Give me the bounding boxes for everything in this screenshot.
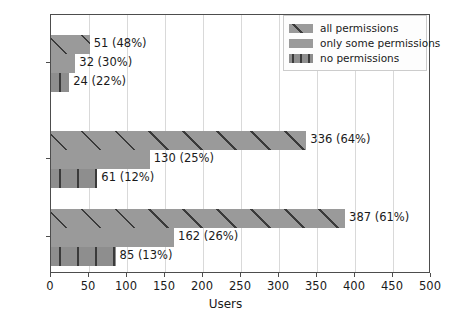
x-tick-label-50: 50 (68, 281, 108, 293)
bar-label-male-vert: 61 (12%) (101, 172, 154, 184)
x-tick-mark-250 (240, 273, 241, 277)
x-tick-mark-50 (88, 273, 89, 277)
bar-label-female-diag: 51 (48%) (94, 38, 147, 50)
x-tick-label-0: 0 (30, 281, 70, 293)
bar-label-male-plain: 130 (25%) (154, 153, 214, 165)
x-tick-mark-0 (50, 273, 51, 277)
x-tick-label-150: 150 (144, 281, 184, 293)
chart-legend: all permissions only some permissions no… (283, 15, 427, 71)
bar-male-vert (51, 169, 97, 188)
bar-female-diag (51, 35, 90, 54)
y-tick-mark-female (46, 62, 50, 63)
x-tick-mark-200 (202, 273, 203, 277)
x-tick-mark-500 (430, 273, 431, 277)
legend-item-all-permissions: all permissions (289, 21, 421, 35)
bar-label-sum-plain: 162 (26%) (178, 231, 238, 243)
bar-label-female-vert: 24 (22%) (73, 76, 126, 88)
legend-swatch-all-permissions (289, 24, 313, 33)
bar-sum-plain (51, 228, 174, 247)
x-tick-mark-100 (126, 273, 127, 277)
x-tick-label-450: 450 (372, 281, 412, 293)
x-tick-label-100: 100 (106, 281, 146, 293)
legend-label-all-permissions: all permissions (320, 23, 398, 34)
legend-label-only-some-permissions: only some permissions (320, 38, 440, 49)
x-tick-label-250: 250 (220, 281, 260, 293)
bar-chart-figure: 51 (48%)32 (30%)24 (22%)336 (64%)130 (25… (0, 0, 451, 320)
bar-label-sum-diag: 387 (61%) (349, 212, 409, 224)
bar-label-female-plain: 32 (30%) (79, 57, 132, 69)
x-axis-title: Users (0, 298, 451, 310)
x-tick-label-500: 500 (410, 281, 450, 293)
bar-sum-diag (51, 209, 345, 228)
x-tick-label-300: 300 (258, 281, 298, 293)
x-tick-mark-150 (164, 273, 165, 277)
y-tick-mark-sum (46, 236, 50, 237)
legend-swatch-no-permissions (289, 54, 313, 63)
bar-label-male-diag: 336 (64%) (310, 134, 370, 146)
x-tick-mark-350 (316, 273, 317, 277)
bar-female-vert (51, 73, 69, 92)
bar-label-sum-vert: 85 (13%) (120, 250, 173, 262)
x-tick-label-200: 200 (182, 281, 222, 293)
legend-item-only-some-permissions: only some permissions (289, 36, 421, 50)
legend-label-no-permissions: no permissions (320, 53, 399, 64)
legend-item-no-permissions: no permissions (289, 51, 421, 65)
bar-female-plain (51, 54, 75, 73)
legend-swatch-only-some-permissions (289, 39, 313, 48)
x-tick-mark-300 (278, 273, 279, 277)
x-tick-label-400: 400 (334, 281, 374, 293)
bar-male-diag (51, 131, 306, 150)
x-tick-mark-400 (354, 273, 355, 277)
y-tick-mark-male (46, 158, 50, 159)
x-tick-mark-450 (392, 273, 393, 277)
x-tick-label-350: 350 (296, 281, 336, 293)
bar-male-plain (51, 150, 150, 169)
bar-sum-vert (51, 247, 116, 266)
